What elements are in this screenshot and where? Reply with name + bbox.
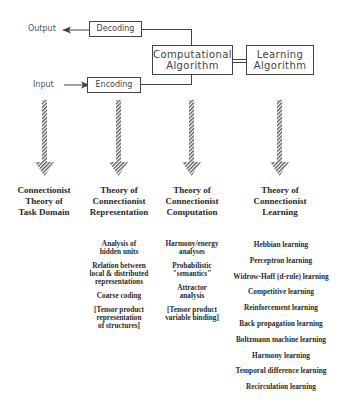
input-label: Input: [33, 80, 54, 89]
column-title-computation: Theory of Connectionist Computation: [152, 185, 232, 218]
list-item: [Tensor product variable binding]: [152, 306, 232, 322]
learning-items: Hebbian learning Perceptron learning Wid…: [228, 241, 334, 399]
learning-label-line1: Learning: [257, 49, 304, 61]
list-item: Widrow-Hoff (d-rule) learning: [228, 273, 334, 281]
list-item: Reinforcement learning: [228, 304, 334, 312]
representation-items: Analysis of hidden units Relation betwee…: [77, 240, 161, 336]
encoding-box: Encoding: [87, 77, 141, 93]
list-item: Boltzmann machine learning: [228, 336, 334, 344]
computational-label-line2: Algorithm: [166, 60, 219, 72]
list-item: Harmony/energy analyses: [152, 240, 232, 256]
computational-algorithm-box: Computational Algorithm: [152, 45, 233, 75]
title-line: Computation: [152, 207, 232, 218]
output-label: Output: [28, 24, 56, 33]
title-line: Connectionist: [79, 196, 159, 207]
title-line: Connectionist: [4, 185, 84, 196]
decoding-connector-vertical: [191, 29, 192, 45]
hatched-arrow-icon-computation: [181, 100, 203, 180]
output-arrow-icon: [62, 25, 92, 35]
computational-label-line1: Computational: [153, 49, 232, 61]
list-item: Coarse coding: [77, 292, 161, 300]
double-link-top: [233, 59, 246, 60]
hatched-arrow-icon-representation: [108, 100, 130, 180]
decoding-box: Decoding: [89, 21, 142, 37]
learning-label-line2: Algorithm: [254, 60, 307, 72]
list-item: Harmony learning: [228, 352, 334, 360]
hatched-arrow-icon-learning: [269, 100, 291, 180]
list-item: Competitive learning: [228, 288, 334, 296]
list-item: Hebbian learning: [228, 241, 334, 249]
encoding-label: Encoding: [96, 80, 133, 89]
learning-algorithm-box: Learning Algorithm: [246, 45, 314, 75]
hatched-arrow-icon-task: [34, 100, 56, 180]
title-line: Theory of: [4, 196, 84, 207]
decoding-connector: [142, 29, 192, 30]
title-line: Connectionist: [152, 196, 232, 207]
list-item: Recirculation learning: [228, 383, 334, 391]
column-title-learning: Theory of Connectionist Learning: [240, 185, 320, 218]
column-title-representation: Theory of Connectionist Representation: [79, 185, 159, 218]
title-line: Task Domain: [4, 207, 84, 218]
computation-items: Harmony/energy analyses Probabilistic "s…: [152, 240, 232, 328]
list-item: Back propagation learning: [228, 320, 334, 328]
list-item: Temporal difference learning: [228, 367, 334, 375]
list-item: Perceptron learning: [228, 257, 334, 265]
encoding-connector-vertical: [191, 75, 192, 85]
title-line: Theory of: [240, 185, 320, 196]
title-line: Theory of: [79, 185, 159, 196]
column-title-task-domain: Connectionist Theory of Task Domain: [4, 185, 84, 218]
list-item: Analysis of hidden units: [77, 240, 161, 256]
list-item: Probabilistic "semantics": [152, 262, 232, 278]
title-line: Theory of: [152, 185, 232, 196]
double-link-bottom: [233, 62, 246, 63]
encoding-connector: [141, 84, 192, 85]
list-item: [Tensor product representation of struct…: [77, 306, 161, 330]
list-item: Relation between local & distributed rep…: [77, 262, 161, 286]
decoding-label: Decoding: [97, 24, 135, 33]
title-line: Learning: [240, 207, 320, 218]
list-item: Attractor analysis: [152, 284, 232, 300]
title-line: Representation: [79, 207, 159, 218]
title-line: Connectionist: [240, 196, 320, 207]
